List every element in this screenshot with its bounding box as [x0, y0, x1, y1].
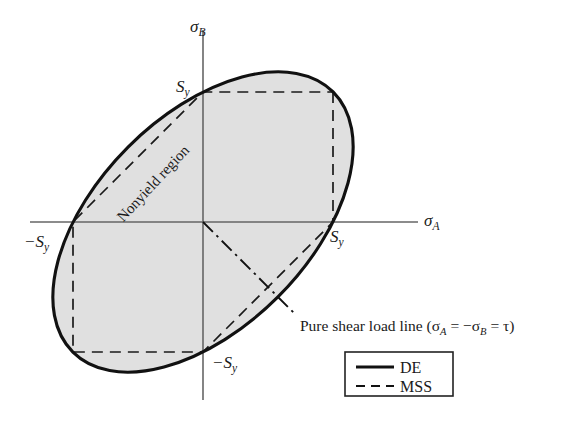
figure-root: σB σA Sy Sy −Sy −Sy Nonyield region Pure… — [0, 0, 579, 432]
pure-shear-annotation-end: = τ) — [487, 317, 515, 334]
legend-label-mss: MSS — [400, 379, 432, 395]
tick-label-neg-sy-bottom-subscript: y — [232, 362, 237, 375]
tick-label-neg-sy-bottom: −Sy — [212, 354, 237, 375]
tick-label-neg-sy-left-symbol: −S — [24, 232, 44, 251]
tick-label-sy-right: Sy — [330, 228, 344, 249]
tick-label-sy-top-subscript: y — [185, 86, 190, 99]
pure-shear-load-line-annotation: Pure shear load line (σA = −σB = τ) — [300, 318, 514, 338]
tick-label-neg-sy-bottom-symbol: −S — [212, 353, 232, 372]
tick-label-sy-right-subscript: y — [339, 236, 344, 249]
yield-criteria-diagram — [0, 0, 579, 432]
tick-label-sy-right-symbol: S — [330, 227, 339, 246]
tick-label-sy-top-symbol: S — [176, 77, 185, 96]
tick-label-neg-sy-left-subscript: y — [44, 241, 49, 254]
axis-label-sigma-b-subscript: B — [198, 26, 205, 39]
axis-label-sigma-a-subscript: A — [432, 220, 439, 233]
pure-shear-annotation-mid: = −σ — [447, 317, 481, 334]
axis-label-sigma-a: σA — [424, 212, 439, 233]
axis-label-sigma-b: σB — [190, 18, 205, 39]
pure-shear-annotation-text: Pure shear load line (σ — [300, 317, 440, 334]
tick-label-sy-top: Sy — [176, 78, 190, 99]
legend-label-de: DE — [400, 360, 421, 376]
tick-label-neg-sy-left: −Sy — [24, 233, 49, 254]
legend-box — [345, 352, 453, 396]
